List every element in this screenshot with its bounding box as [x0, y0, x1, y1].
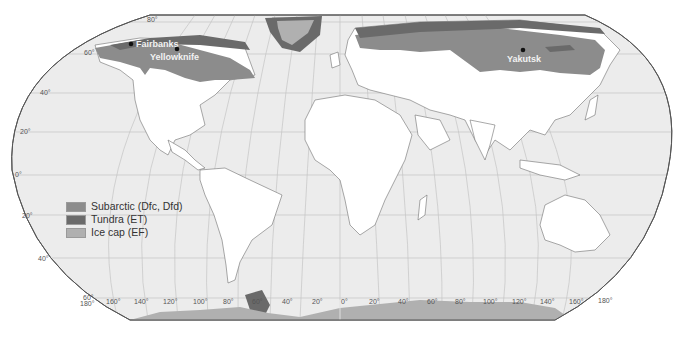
lon-label: 40° — [398, 298, 409, 305]
lat-label-equator: 0° — [15, 171, 22, 178]
subarctic-swatch-icon — [66, 202, 86, 212]
icecap-swatch-icon — [66, 228, 86, 238]
lon-label: 140° — [540, 298, 555, 305]
legend-item-icecap: Ice cap (EF) — [66, 226, 183, 239]
city-dot-yakutsk — [521, 48, 526, 53]
world-climate-map: 80° 60° 40° 20° 0° 20° 40° 60° 180° 160°… — [0, 0, 682, 340]
city-label-fairbanks: Fairbanks — [136, 39, 179, 49]
lon-label: 60° — [427, 298, 438, 305]
lon-label: 40° — [282, 298, 293, 305]
lat-label-20n: 20° — [20, 128, 31, 135]
lon-label: 0° — [341, 298, 348, 305]
lon-label: 160° — [569, 298, 584, 305]
uk — [330, 52, 340, 68]
lon-label: 180° — [80, 300, 95, 307]
legend-label: Tundra (ET) — [91, 213, 147, 226]
lat-label-80n: 80° — [147, 16, 158, 23]
legend-label: Subarctic (Dfc, Dfd) — [91, 200, 183, 213]
lon-label: 180° — [598, 297, 613, 304]
city-dot-fairbanks — [129, 42, 134, 47]
map-legend: Subarctic (Dfc, Dfd) Tundra (ET) Ice cap… — [66, 200, 183, 239]
legend-item-subarctic: Subarctic (Dfc, Dfd) — [66, 200, 183, 213]
lon-label: 80° — [223, 298, 234, 305]
city-label-yellowknife: Yellowknife — [150, 52, 199, 62]
map-canvas: 80° 60° 40° 20° 0° 20° 40° 60° 180° 160°… — [0, 0, 682, 340]
lon-label: 120° — [512, 298, 527, 305]
lon-label: 20° — [369, 298, 380, 305]
lon-label: 100° — [483, 298, 498, 305]
lat-label-40s: 40° — [38, 255, 49, 262]
city-label-yakutsk: Yakutsk — [507, 54, 542, 64]
lat-label-60n: 60° — [84, 49, 95, 56]
legend-label: Ice cap (EF) — [91, 226, 148, 239]
lon-label: 120° — [163, 298, 178, 305]
city-dot-yellowknife — [175, 47, 180, 52]
lon-label: 60° — [252, 298, 263, 305]
lon-label: 80° — [455, 298, 466, 305]
lat-label-20s: 20° — [22, 212, 33, 219]
lon-label: 160° — [106, 298, 121, 305]
lat-label-40n: 40° — [40, 89, 51, 96]
lon-label: 140° — [134, 298, 149, 305]
tundra-swatch-icon — [66, 215, 86, 225]
lon-label: 20° — [312, 298, 323, 305]
lon-label: 100° — [193, 298, 208, 305]
legend-item-tundra: Tundra (ET) — [66, 213, 183, 226]
